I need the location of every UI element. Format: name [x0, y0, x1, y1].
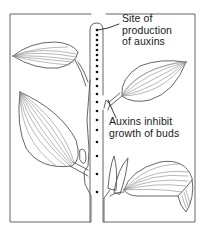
left-frame: [10, 14, 91, 222]
site-label-line-1: Site of: [122, 13, 172, 25]
inhibit-label-line-1: Auxins inhibit: [109, 116, 179, 128]
site-label-line-3: of auxins: [122, 36, 172, 48]
upper-right-leaf: [108, 61, 186, 106]
auxin-dots: [96, 29, 99, 194]
inhibit-label-line-2: growth of buds: [109, 128, 179, 140]
lower-left-leaf: [19, 92, 88, 176]
site-of-production-label: Site of production of auxins: [122, 13, 172, 48]
lower-right-leaf: [108, 156, 193, 212]
upper-left-leaf: [13, 42, 88, 86]
apical-dominance-diagram: Site of production of auxins Auxins inhi…: [0, 0, 210, 236]
auxins-inhibit-label: Auxins inhibit growth of buds: [109, 116, 179, 139]
